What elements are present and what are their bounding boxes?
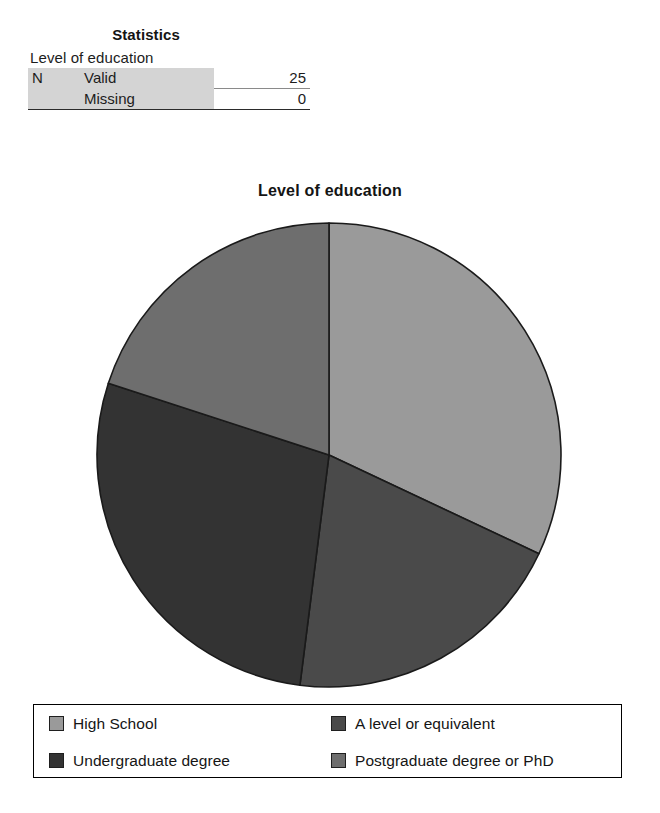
legend-label: Postgraduate degree or PhD (355, 752, 554, 770)
legend-label: Undergraduate degree (73, 752, 230, 770)
legend-swatch-postgraduate (331, 753, 346, 768)
legend-swatch-high-school (49, 716, 64, 731)
table-row: N Valid 25 (28, 68, 310, 89)
chart-legend: High School A level or equivalent Underg… (33, 704, 622, 778)
table-cell-value: 25 (214, 68, 310, 89)
legend-swatch-a-level (331, 716, 346, 731)
table-cell-group: N (28, 68, 80, 89)
legend-swatch-undergraduate (49, 753, 64, 768)
pie-chart-svg (94, 220, 564, 690)
legend-item-undergraduate[interactable]: Undergraduate degree (34, 742, 327, 779)
statistics-table-block: Statistics Level of education N Valid 25… (28, 26, 328, 110)
table-row: Missing 0 (28, 89, 310, 110)
legend-row: High School A level or equivalent (34, 705, 621, 742)
table-cell-label: Missing (80, 89, 214, 110)
legend-label: A level or equivalent (355, 715, 495, 733)
chart-title: Level of education (0, 182, 660, 200)
table-cell-group (28, 89, 80, 110)
pie-slice-group (97, 223, 561, 687)
table-cell-label: Valid (80, 68, 214, 89)
statistics-table-caption: Level of education (30, 49, 328, 66)
statistics-table: N Valid 25 Missing 0 (28, 68, 310, 110)
legend-row: Undergraduate degree Postgraduate degree… (34, 742, 621, 779)
statistics-table-title: Statistics (28, 26, 264, 43)
table-cell-value: 0 (214, 89, 310, 110)
pie-chart (94, 220, 564, 690)
legend-label: High School (73, 715, 157, 733)
legend-item-a-level[interactable]: A level or equivalent (327, 705, 621, 742)
legend-item-postgraduate[interactable]: Postgraduate degree or PhD (327, 742, 621, 779)
legend-item-high-school[interactable]: High School (34, 705, 327, 742)
